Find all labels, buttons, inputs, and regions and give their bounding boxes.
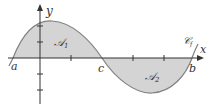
y-axis-arrow-icon bbox=[37, 4, 43, 11]
y-axis-label: y bbox=[45, 4, 53, 18]
curve-label: 𝒞f bbox=[183, 35, 194, 48]
diagram: y x a c b 𝒜1 𝒜2 𝒞f bbox=[0, 0, 213, 111]
point-b-label: b bbox=[189, 62, 196, 75]
x-axis-label: x bbox=[200, 43, 207, 56]
point-c-label: c bbox=[98, 62, 104, 75]
point-a-label: a bbox=[11, 60, 18, 73]
